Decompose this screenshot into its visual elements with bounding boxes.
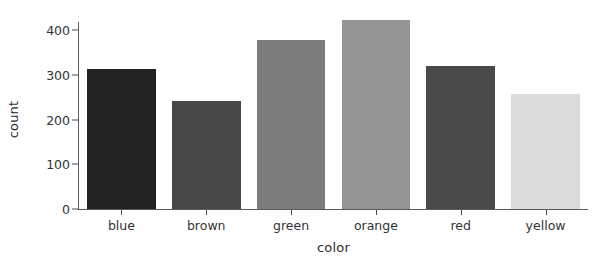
bar-brown[interactable] [172, 101, 241, 209]
x-axis-tick-labels: bluebrowngreenorangeredyellow [79, 217, 588, 237]
bar-slot [79, 14, 164, 209]
bar-chart: count 0100200300400 bluebrowngreenorange… [0, 0, 597, 272]
y-axis-tick-labels: 0100200300400 [26, 0, 70, 272]
y-axis-tick-label: 100 [26, 157, 70, 172]
x-axis-tick-mark [376, 210, 377, 215]
x-axis-tick-mark [121, 210, 122, 215]
y-axis-tick-label: 300 [26, 67, 70, 82]
bar-slot [334, 14, 419, 209]
x-axis-tick-mark [206, 210, 207, 215]
bar-orange[interactable] [342, 20, 411, 209]
plot-panel [79, 14, 588, 209]
x-axis-tick-label-yellow: yellow [503, 217, 588, 235]
bar-slot [418, 14, 503, 209]
x-axis-tick-mark [461, 210, 462, 215]
y-axis-tick-label: 0 [26, 202, 70, 217]
x-axis-title: color [79, 240, 588, 255]
bar-slot [503, 14, 588, 209]
bar-green[interactable] [257, 40, 326, 209]
x-axis-tick-label-orange: orange [334, 217, 419, 235]
bar-yellow[interactable] [511, 94, 580, 209]
bar-slot [164, 14, 249, 209]
bar-slot [249, 14, 334, 209]
y-axis-tick-label: 400 [26, 23, 70, 38]
x-axis-tick-label-brown: brown [164, 217, 249, 235]
x-axis-ticks [79, 210, 588, 216]
x-axis-tick-label-green: green [249, 217, 334, 235]
bar-blue[interactable] [87, 69, 156, 209]
x-axis-tick-label-red: red [418, 217, 503, 235]
x-axis-tick-mark [291, 210, 292, 215]
bar-red[interactable] [426, 66, 495, 209]
x-axis-tick-label-blue: blue [79, 217, 164, 235]
y-axis-tick-label: 200 [26, 112, 70, 127]
x-axis-tick-mark [546, 210, 547, 215]
y-axis-title: count [6, 30, 22, 209]
